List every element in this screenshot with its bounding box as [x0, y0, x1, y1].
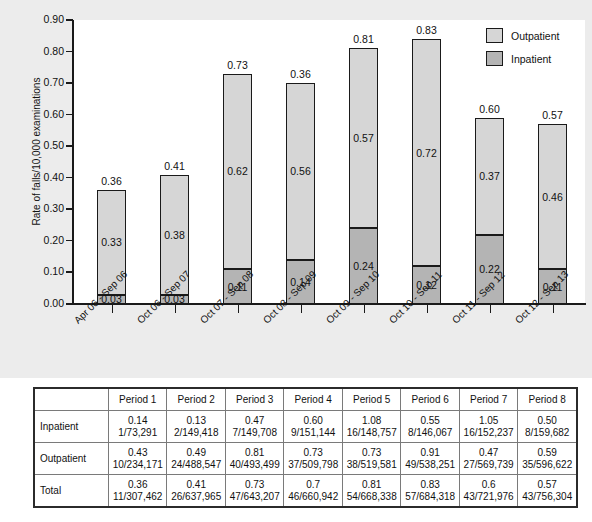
- table-header-row: Period 1Period 2Period 3Period 4Period 5…: [34, 388, 577, 411]
- bar-segment-outpatient[interactable]: 0.72: [412, 39, 441, 266]
- x-tick-mark: [490, 305, 492, 313]
- table-cell-count: 7/149,708: [228, 427, 281, 439]
- table-cell-count: 2/149,418: [169, 427, 222, 439]
- x-tick-mark: [238, 305, 240, 313]
- table-cell-count: 40/493,499: [228, 459, 281, 471]
- y-tick-label: 0.10: [30, 265, 64, 277]
- bar-segment-outpatient[interactable]: 0.57: [349, 48, 378, 228]
- bar-group[interactable]: 0.570.240.81: [349, 48, 378, 304]
- table-column-header: Period 8: [518, 388, 577, 411]
- bar-group[interactable]: 0.720.120.83: [412, 39, 441, 304]
- table-cell-count: 9/151,144: [286, 427, 339, 439]
- table-cell-rate: 0.73: [345, 447, 398, 459]
- table-column-header: Period 5: [342, 388, 400, 411]
- legend-item[interactable]: Inpatient: [486, 51, 559, 66]
- bar-total-label: 0.36: [101, 175, 121, 187]
- table-cell: 0.609/151,144: [284, 411, 342, 443]
- table-cell-count: 35/596,622: [520, 459, 574, 471]
- x-tick-mark: [301, 305, 303, 313]
- table-cell-count: 1/73,291: [111, 427, 164, 439]
- legend-item[interactable]: Outpatient: [486, 28, 559, 43]
- y-tick-mark: [66, 271, 73, 273]
- y-axis-line: [72, 20, 74, 305]
- table-cell-rate: 0.41: [169, 479, 222, 491]
- table-cell: 0.132/149,418: [167, 411, 225, 443]
- y-tick-mark: [66, 208, 73, 210]
- table-cell-rate: 0.73: [228, 479, 281, 491]
- table-cell: 0.5743/756,304: [518, 475, 577, 508]
- bar-segment-value-outpatient: 0.37: [479, 170, 499, 182]
- table-cell: 0.9149/538,251: [401, 443, 459, 475]
- table-cell-count: 16/152,237: [462, 427, 515, 439]
- table-cell-count: 37/509,798: [286, 459, 339, 471]
- bar-segment-value-outpatient: 0.46: [542, 191, 562, 203]
- bar-segment-outpatient[interactable]: 0.62: [223, 74, 252, 270]
- table-cell-count: 16/148,757: [345, 427, 398, 439]
- y-tick-mark: [66, 303, 73, 305]
- bar-segment-outpatient[interactable]: 0.37: [475, 118, 504, 235]
- x-tick-mark: [112, 305, 114, 313]
- bar-segment-outpatient[interactable]: 0.46: [538, 124, 567, 269]
- y-tick-mark: [66, 19, 73, 21]
- table-cell-rate: 0.47: [462, 447, 515, 459]
- table-cell-rate: 0.50: [520, 415, 574, 427]
- table-cell-rate: 1.08: [345, 415, 398, 427]
- x-tick-mark: [364, 305, 366, 313]
- x-tick-mark: [175, 305, 177, 313]
- bar-segment-value-outpatient: 0.62: [227, 165, 247, 177]
- table-body: Inpatient0.141/73,2910.132/149,4180.477/…: [34, 411, 577, 508]
- table-cell-rate: 0.6: [462, 479, 515, 491]
- y-tick-mark: [66, 114, 73, 116]
- table-cell-count: 8/159,682: [520, 427, 574, 439]
- table-cell-rate: 0.14: [111, 415, 164, 427]
- table-column-header: Period 4: [284, 388, 342, 411]
- table-cell-count: 38/519,581: [345, 459, 398, 471]
- data-table-wrapper: Period 1Period 2Period 3Period 4Period 5…: [33, 387, 578, 508]
- bar-segment-value-outpatient: 0.56: [290, 165, 310, 177]
- table-cell-count: 11/307,462: [111, 491, 164, 503]
- table-corner-cell: [34, 388, 109, 411]
- y-tick-label: 0.80: [30, 45, 64, 57]
- y-tick-label: 0.40: [30, 171, 64, 183]
- bar-total-label: 0.41: [164, 160, 184, 172]
- table-cell: 0.8154/668,338: [342, 475, 400, 508]
- bar-segment-value-outpatient: 0.33: [101, 236, 121, 248]
- table-cell-rate: 0.36: [111, 479, 164, 491]
- y-tick-mark: [66, 240, 73, 242]
- y-tick-label: 0.50: [30, 139, 64, 151]
- table-cell: 0.5935/596,622: [518, 443, 577, 475]
- y-tick-label: 0.60: [30, 108, 64, 120]
- bar-total-label: 0.81: [353, 33, 373, 45]
- x-tick-mark: [553, 305, 555, 313]
- table-cell-count: 8/146,067: [403, 427, 456, 439]
- table-column-header: Period 6: [401, 388, 459, 411]
- y-tick-mark: [66, 145, 73, 147]
- y-tick-label: 0.30: [30, 202, 64, 214]
- table-cell: 0.746/660,942: [284, 475, 342, 508]
- bar-segment-outpatient[interactable]: 0.56: [286, 83, 315, 260]
- table-cell-rate: 0.7: [286, 479, 339, 491]
- table-cell-rate: 0.57: [520, 479, 574, 491]
- table-cell-rate: 0.91: [403, 447, 456, 459]
- bar-total-label: 0.83: [416, 24, 436, 36]
- bar-total-label: 0.73: [227, 59, 247, 71]
- bar-total-label: 0.57: [542, 109, 562, 121]
- table-cell-rate: 0.55: [403, 415, 456, 427]
- chart-panel: Rate of falls/10,000 examinations 0.900.…: [0, 0, 592, 378]
- table-cell: 0.7347/643,207: [225, 475, 283, 508]
- table-cell: 0.477/149,708: [225, 411, 283, 443]
- table-cell-count: 26/637,965: [169, 491, 222, 503]
- table-column-header: Period 7: [459, 388, 517, 411]
- data-table: Period 1Period 2Period 3Period 4Period 5…: [33, 387, 578, 508]
- table-head: Period 1Period 2Period 3Period 4Period 5…: [34, 388, 577, 411]
- table-cell-count: 47/643,207: [228, 491, 281, 503]
- table-cell: 0.7337/509,798: [284, 443, 342, 475]
- table-cell: 1.0516/152,237: [459, 411, 517, 443]
- legend-swatch: [486, 51, 503, 66]
- table-cell-rate: 0.49: [169, 447, 222, 459]
- table-cell: 0.4924/488,547: [167, 443, 225, 475]
- table-cell-count: 46/660,942: [286, 491, 339, 503]
- table-row-header: Inpatient: [34, 411, 109, 443]
- figure-root: Rate of falls/10,000 examinations 0.900.…: [0, 0, 592, 522]
- table-cell-rate: 0.83: [403, 479, 456, 491]
